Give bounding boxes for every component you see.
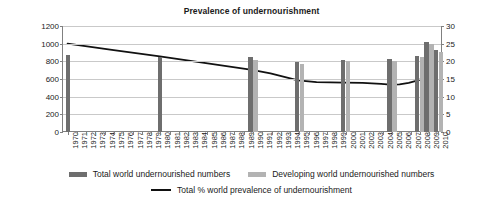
bar-total-2009 xyxy=(424,42,428,132)
x-axis-tickmark xyxy=(68,132,69,135)
x-axis-tickmark xyxy=(262,132,263,135)
x-axis-label-2004: 2004 xyxy=(386,132,395,149)
x-axis-tickmark xyxy=(160,132,161,135)
x-axis-label-1978: 1978 xyxy=(145,132,154,149)
legend-swatch-total-icon xyxy=(69,172,87,177)
x-axis-tickmark xyxy=(151,132,152,135)
legend-swatch-developing-icon xyxy=(248,172,266,177)
x-axis-label-1985: 1985 xyxy=(210,132,219,149)
bar-total-2010 xyxy=(434,50,438,132)
y-axis-right-tickmark xyxy=(441,44,444,45)
x-axis-tickmark xyxy=(253,132,254,135)
x-axis-label-2000: 2000 xyxy=(349,132,358,149)
x-axis-label-1984: 1984 xyxy=(200,132,209,149)
x-axis-label-2010: 2010 xyxy=(441,132,450,149)
x-axis-label-2005: 2005 xyxy=(395,132,404,149)
x-axis-label-1974: 1974 xyxy=(108,132,117,149)
chart-legend: Total world undernourished numbers Devel… xyxy=(0,166,503,198)
y-axis-left-tickmark xyxy=(60,132,63,133)
x-axis-label-1973: 1973 xyxy=(98,132,107,149)
bar-developing xyxy=(300,64,304,132)
legend-label-developing: Developing world undernourished numbers xyxy=(272,169,434,179)
legend-label-percent: Total % world prevalence of undernourish… xyxy=(177,185,352,195)
x-axis-label-1995: 1995 xyxy=(302,132,311,149)
x-axis-tickmark xyxy=(290,132,291,135)
y-axis-left-tick-1000: 1000 xyxy=(41,39,59,48)
x-axis-tickmark xyxy=(207,132,208,135)
x-axis-tickmark xyxy=(133,132,134,135)
legend-item-total: Total world undernourished numbers xyxy=(69,169,231,179)
x-axis-tickmark xyxy=(438,132,439,135)
x-axis-label-1990: 1990 xyxy=(256,132,265,149)
y-axis-left-tick-0: 0 xyxy=(55,128,59,137)
x-axis-tickmark xyxy=(355,132,356,135)
legend-item-percent: Total % world prevalence of undernourish… xyxy=(151,185,352,195)
x-axis-label-1982: 1982 xyxy=(182,132,191,149)
x-axis-label-1996: 1996 xyxy=(312,132,321,149)
x-axis-label-2009: 2009 xyxy=(432,132,441,149)
x-axis-label-1976: 1976 xyxy=(126,132,135,149)
y-axis-right-tick-25: 25 xyxy=(446,39,455,48)
x-axis-tickmark xyxy=(281,132,282,135)
y-axis-left-tickmark xyxy=(60,61,63,62)
x-axis-label-1992: 1992 xyxy=(275,132,284,149)
x-axis-label-1999: 1999 xyxy=(339,132,348,149)
x-axis-tickmark xyxy=(336,132,337,135)
y-axis-left-tick-800: 800 xyxy=(46,57,59,66)
x-axis-tickmark xyxy=(401,132,402,135)
x-axis-tickmark xyxy=(197,132,198,135)
bar-total-1990 xyxy=(248,57,252,132)
x-axis-label-1972: 1972 xyxy=(89,132,98,149)
x-axis-label-1975: 1975 xyxy=(117,132,126,149)
x-axis-label-1987: 1987 xyxy=(228,132,237,149)
x-axis-tickmark xyxy=(327,132,328,135)
x-axis-label-1986: 1986 xyxy=(219,132,228,149)
chart-title: Prevalence of undernourishment xyxy=(0,6,503,16)
x-axis-tickmark xyxy=(346,132,347,135)
legend-row-line: Total % world prevalence of undernourish… xyxy=(0,182,503,198)
legend-label-total: Total world undernourished numbers xyxy=(93,169,231,179)
bar-developing xyxy=(429,44,433,132)
x-axis-label-1991: 1991 xyxy=(265,132,274,149)
x-axis-label-1993: 1993 xyxy=(284,132,293,149)
bar-total-2005 xyxy=(387,59,391,132)
bar-developing xyxy=(392,61,396,132)
y-axis-right-tickmark xyxy=(441,26,444,27)
y-axis-right-tick-30: 30 xyxy=(446,22,455,31)
legend-swatch-line-icon xyxy=(151,189,171,191)
x-axis-tickmark xyxy=(318,132,319,135)
x-axis-label-2008: 2008 xyxy=(423,132,432,149)
y-axis-right-tick-15: 15 xyxy=(446,75,455,84)
bar-developing xyxy=(420,57,424,132)
x-axis-label-1977: 1977 xyxy=(136,132,145,149)
x-axis-tickmark xyxy=(123,132,124,135)
bar-total-2008 xyxy=(415,56,419,132)
x-axis-label-1998: 1998 xyxy=(330,132,339,149)
y-axis-right-tick-10: 10 xyxy=(446,92,455,101)
x-axis-tickmark xyxy=(411,132,412,135)
plot-area: 0200400600800100012000510152025301970197… xyxy=(62,26,442,132)
x-axis-label-2003: 2003 xyxy=(376,132,385,149)
x-axis-tickmark xyxy=(188,132,189,135)
chart-container: Prevalence of undernourishment 020040060… xyxy=(0,0,503,215)
legend-item-developing: Developing world undernourished numbers xyxy=(248,169,434,179)
y-axis-left-tickmark xyxy=(60,79,63,80)
y-axis-left-tick-200: 200 xyxy=(46,110,59,119)
x-axis-tickmark xyxy=(299,132,300,135)
gridline xyxy=(63,26,441,27)
y-axis-left-tickmark xyxy=(60,97,63,98)
x-axis-tickmark xyxy=(420,132,421,135)
bar-total-2000 xyxy=(341,60,345,132)
x-axis-tickmark xyxy=(244,132,245,135)
legend-row-bars: Total world undernourished numbers Devel… xyxy=(0,166,503,182)
x-axis-label-2006: 2006 xyxy=(404,132,413,149)
x-axis-tickmark xyxy=(429,132,430,135)
bar-developing xyxy=(346,61,350,132)
x-axis-label-1970: 1970 xyxy=(71,132,80,149)
y-axis-left-tickmark xyxy=(60,44,63,45)
x-axis-label-1989: 1989 xyxy=(247,132,256,149)
x-axis-tickmark xyxy=(105,132,106,135)
y-axis-left-tick-1200: 1200 xyxy=(41,22,59,31)
x-axis-tickmark xyxy=(225,132,226,135)
y-axis-left-tick-600: 600 xyxy=(46,75,59,84)
